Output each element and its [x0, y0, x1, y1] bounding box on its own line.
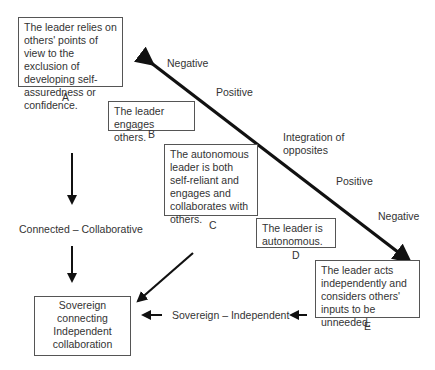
box-d: The leader is autonomous.	[256, 218, 336, 248]
label-connected-collaborative: Connected – Collaborative	[19, 223, 143, 236]
box-c-text: The autonomous leader is both self-relia…	[170, 148, 249, 225]
box-a: The leader relies on others' points of v…	[18, 17, 123, 87]
box-e: The leader acts independently and consid…	[315, 260, 420, 318]
c-to-result-arrow	[138, 253, 193, 301]
result-line-4: collaboration	[40, 338, 125, 351]
label-positive-bottom: Positive	[336, 175, 373, 188]
label-b: B	[148, 128, 155, 141]
box-d-text: The leader is autonomous.	[262, 222, 323, 247]
result-line-2: connecting	[40, 312, 125, 325]
label-a: A	[62, 91, 69, 104]
result-line-3: Independent	[40, 325, 125, 338]
label-c: C	[209, 219, 217, 232]
label-negative-top: Negative	[167, 57, 208, 70]
label-positive-top: Positive	[216, 86, 253, 99]
label-d: D	[292, 249, 300, 262]
label-negative-bottom: Negative	[378, 210, 419, 223]
box-b: The leader engages others.	[108, 101, 195, 131]
integration-text: Integration of opposites	[283, 131, 344, 156]
box-result: Sovereign connecting Independent collabo…	[34, 296, 131, 356]
label-sovereign-independent: Sovereign – Independent	[172, 309, 289, 322]
result-line-1: Sovereign	[40, 299, 125, 312]
label-e: E	[364, 320, 371, 333]
label-integration: Integration of opposites	[283, 131, 353, 157]
box-c: The autonomous leader is both self-relia…	[164, 144, 258, 216]
